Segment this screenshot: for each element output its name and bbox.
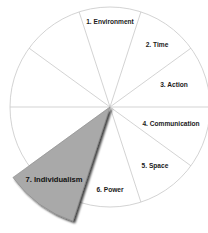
segment-label-action: 3. Action (160, 82, 188, 89)
segment-label-individualism: 7. Individualism (26, 176, 83, 184)
segment-label-communication: 4. Communication (142, 121, 199, 128)
segment-label-power: 6. Power (96, 187, 123, 194)
segment-label-time: 2. Time (146, 42, 169, 49)
segment-label-space: 5. Space (142, 163, 169, 170)
culture-wheel-diagram (0, 0, 208, 233)
segment-label-environment: 1. Environment (86, 19, 134, 26)
